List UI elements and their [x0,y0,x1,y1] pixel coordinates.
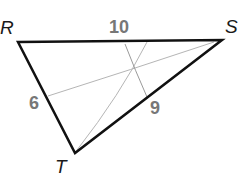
vertex-label-t: T [55,157,67,176]
construction-line-from-t [77,42,147,150]
side-label-rs: 10 [109,18,129,36]
side-label-rt: 6 [29,94,39,112]
side-label-st: 9 [150,99,160,117]
construction-line-from-s [48,42,214,96]
triangle-rst [18,40,222,153]
vertex-label-s: S [225,17,238,36]
vertex-label-r: R [0,18,14,37]
